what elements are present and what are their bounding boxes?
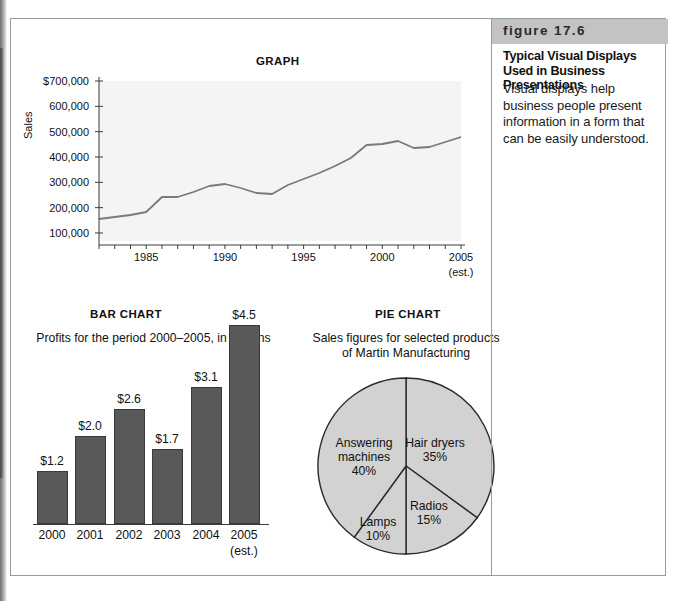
bar-chart-category-note: (est.) [230, 544, 258, 558]
bar-chart-bar [152, 449, 183, 524]
line-graph-x-tick: 2000 [370, 251, 394, 263]
bar-chart-value-label: $4.5 [232, 308, 256, 322]
figure-caption-panel: figure 17.6 Typical Visual Displays Used… [491, 19, 667, 576]
page-spine-shadow-inner [0, 48, 5, 478]
pie-chart-subtitle: Sales figures for selected products of M… [311, 331, 501, 361]
pie-chart-slice-label: Lamps10% [360, 515, 397, 543]
bar-chart-bar [191, 387, 222, 524]
line-graph-y-tick: 200,000 [49, 202, 89, 214]
line-graph-y-tick: 600,000 [49, 100, 89, 112]
bar-chart-bar [37, 471, 68, 524]
bar-chart-block: $1.22000$2.02001$2.62002$1.72003$3.12004… [11, 369, 291, 574]
bar-chart-title: BAR CHART [90, 308, 162, 320]
line-graph-title: GRAPH [256, 55, 300, 67]
line-graph-block: GRAPH Sales $700,000600,000500,000400,00… [11, 19, 491, 289]
line-graph-x-tick: 1995 [291, 251, 315, 263]
bar-chart-category-label: 2001 [76, 528, 103, 542]
pie-chart-title: PIE CHART [375, 308, 441, 320]
line-graph-y-tick: 500,000 [49, 126, 89, 138]
line-graph-y-tick: $700,000 [43, 75, 89, 87]
bar-chart-category-label: 2005 [230, 528, 257, 542]
pie-chart-slice-label: Radios15% [410, 499, 448, 527]
pie-chart-block: Hair dryers35%Radios15%Lamps10%Answering… [311, 374, 501, 559]
bar-chart-value-label: $3.1 [194, 370, 218, 384]
line-graph-y-tick: 100,000 [49, 227, 89, 239]
bar-chart-category-label: 2004 [192, 528, 219, 542]
pie-chart-slice-label: Hair dryers35% [405, 436, 465, 464]
bar-chart-value-label: $2.0 [78, 419, 102, 433]
bar-chart-value-label: $2.6 [117, 392, 141, 406]
line-graph-x-tick: 1990 [213, 251, 237, 263]
bar-chart-bar [114, 409, 145, 524]
bar-chart-value-label: $1.7 [155, 432, 179, 446]
pie-chart-slice-label: Answeringmachines40% [336, 436, 393, 478]
bar-chart-baseline [33, 524, 269, 525]
figure-tag-label: figure 17.6 [503, 23, 586, 38]
bar-chart-bar [229, 325, 260, 524]
line-graph-x-tick: 1985 [134, 251, 158, 263]
figure-frame: GRAPH Sales $700,000600,000500,000400,00… [10, 18, 666, 576]
line-graph-y-tick-labels: $700,000600,000500,000400,000300,000200,… [11, 19, 89, 259]
figure-caption-body: Visual displays help business people pre… [503, 81, 663, 147]
line-graph-x-tick-labels: 19851990199520002005(est.) [99, 241, 461, 287]
line-graph-x-tick-note: (est.) [448, 266, 473, 278]
line-graph-y-tick: 300,000 [49, 176, 89, 188]
bar-chart-bar [75, 436, 106, 524]
bar-chart-category-label: 2000 [38, 528, 65, 542]
bar-chart-value-label: $1.2 [40, 454, 64, 468]
bar-chart-category-label: 2003 [153, 528, 180, 542]
bar-chart-category-label: 2002 [115, 528, 142, 542]
line-graph-axes [91, 77, 469, 249]
line-graph-y-tick: 400,000 [49, 151, 89, 163]
line-graph-x-tick: 2005 [449, 251, 473, 263]
